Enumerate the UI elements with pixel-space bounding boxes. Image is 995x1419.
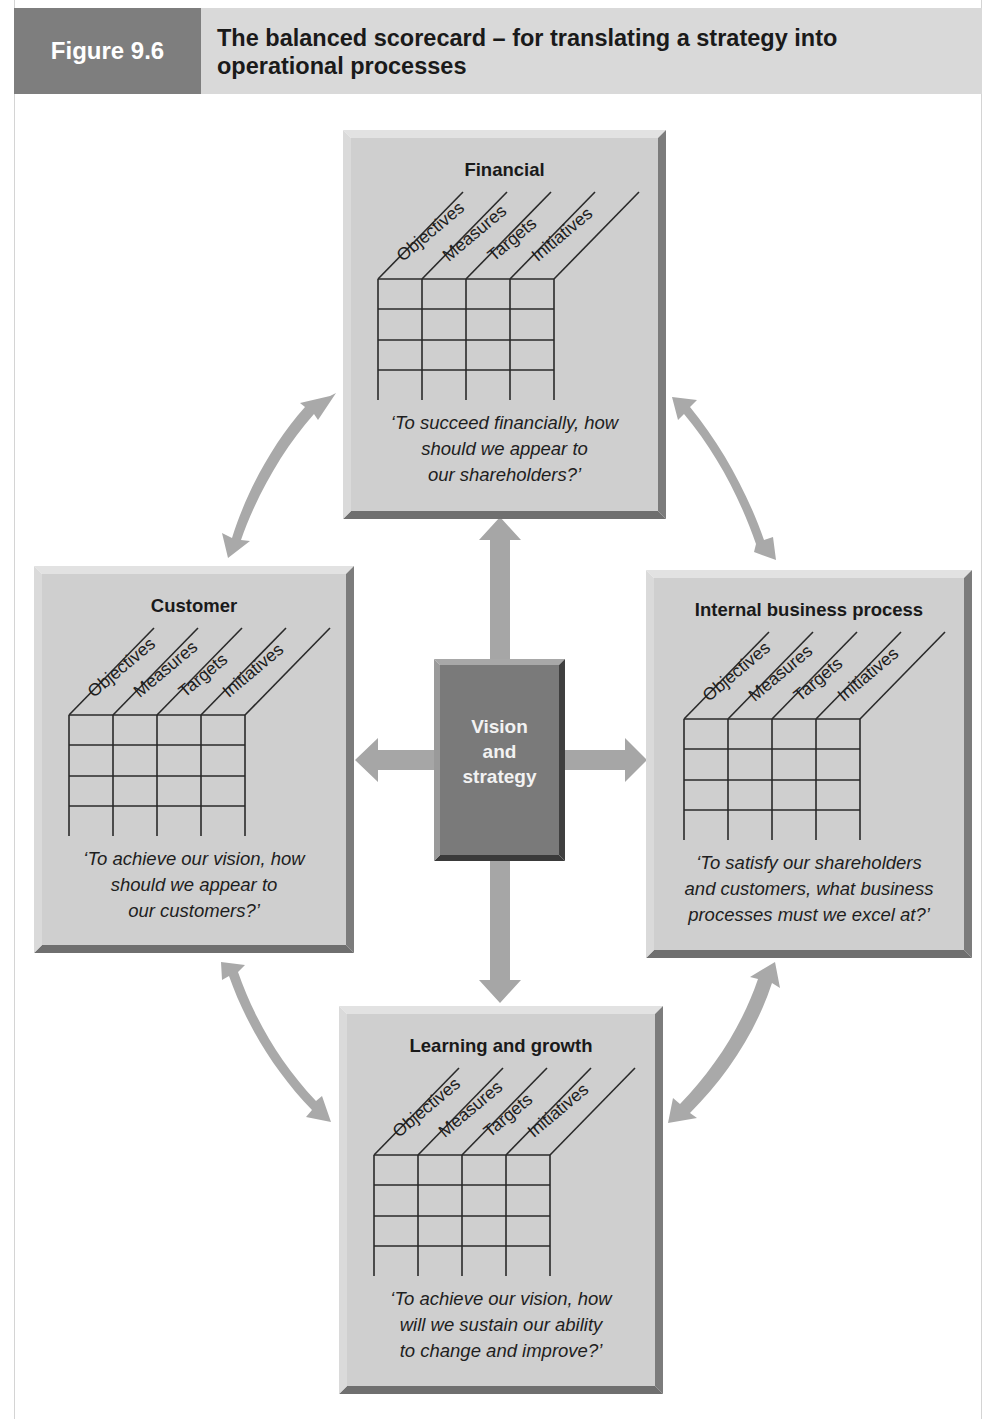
panel-title: Learning and growth bbox=[347, 1035, 655, 1057]
vision-line2: and bbox=[483, 739, 517, 764]
column-initiatives: Initiatives bbox=[834, 643, 903, 706]
column-initiatives: Initiatives bbox=[219, 639, 288, 702]
vision-line3: strategy bbox=[463, 764, 537, 789]
panel-question: ‘To achieve our vision, how should we ap… bbox=[42, 846, 346, 924]
vision-and-strategy-box: Vision and strategy bbox=[434, 659, 565, 861]
column-initiatives: Initiatives bbox=[524, 1079, 593, 1142]
column-initiatives: Initiatives bbox=[528, 203, 597, 266]
panel-learning-and-growth: Learning and growth Objectives Measures … bbox=[347, 1014, 655, 1386]
panel-title: Internal business process bbox=[654, 599, 964, 621]
panel-financial: Financial Objectives Measures Targets In… bbox=[351, 138, 658, 511]
panel-title: Financial bbox=[351, 159, 658, 181]
panel-question: ‘To succeed financially, how should we a… bbox=[351, 410, 658, 488]
vision-line1: Vision bbox=[471, 714, 528, 739]
panel-question: ‘To achieve our vision, how will we sust… bbox=[347, 1286, 655, 1364]
panel-question: ‘To satisfy our shareholders and custome… bbox=[654, 850, 964, 928]
panel-customer: Customer Objectives Measures Targets Ini… bbox=[42, 574, 346, 945]
panel-title: Customer bbox=[42, 595, 346, 617]
panel-internal-business-process: Internal business process Objectives Mea… bbox=[654, 578, 964, 950]
